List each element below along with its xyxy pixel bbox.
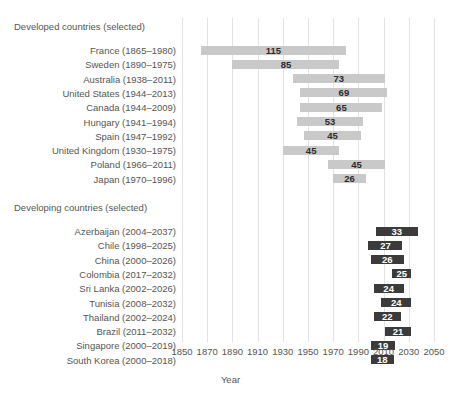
row-label-united-kingdom: United Kingdom (1930–1975) [0,145,176,156]
x-tick-2050: 2050 [423,346,444,357]
row-label-hungary: Hungary (1941–1994) [0,117,176,128]
x-axis-title: Year [0,374,461,385]
x-tick-1930: 1930 [272,346,293,357]
bar-poland: 45 [328,160,385,169]
group-heading-developed: Developed countries (selected) [14,21,145,32]
row-label-france: France (1865–1980) [0,45,176,56]
x-tick-1850: 1850 [171,346,192,357]
bar-value-label: 25 [397,269,408,278]
bar-colombia: 25 [392,269,411,278]
x-tick-1890: 1890 [222,346,243,357]
row-label-sri-lanka: Sri Lanka (2002–2026) [0,283,176,294]
row-label-azerbaijan: Azerbaijan (2004–2037) [0,226,176,237]
bar-spain: 45 [304,131,361,140]
row-label-brazil: Brazil (2011–2032) [0,326,176,337]
x-tick-2010: 2010 [373,346,394,357]
bar-value-label: 33 [392,227,403,236]
row-label-united-states: United States (1944–2013) [0,88,176,99]
bar-value-label: 27 [380,241,391,250]
row-label-chile: Chile (1998–2025) [0,240,176,251]
group-heading-developing: Developing countries (selected) [14,202,147,213]
bar-value-label: 24 [383,284,394,293]
bar-australia: 73 [293,74,385,83]
bar-united-kingdom: 45 [283,146,340,155]
bar-value-label: 21 [393,327,404,336]
bar-chile: 27 [368,241,402,250]
row-label-canada: Canada (1944–2009) [0,102,176,113]
bar-hungary: 53 [297,117,364,126]
chart-canvas: Developed countries (selected)France (18… [0,0,461,402]
row-label-china: China (2000–2026) [0,255,176,266]
bar-value-label: 45 [306,146,317,155]
row-label-colombia: Colombia (2017–2032) [0,269,176,280]
bar-value-label: 53 [325,117,336,126]
row-label-thailand: Thailand (2002–2024) [0,312,176,323]
bar-china: 26 [371,255,404,264]
bar-value-label: 26 [344,174,355,183]
bar-value-label: 22 [382,312,393,321]
bar-value-label: 45 [327,131,338,140]
row-label-sweden: Sweden (1890–1975) [0,59,176,70]
bar-value-label: 65 [336,103,347,112]
bar-sri-lanka: 24 [374,284,404,293]
row-label-south-korea: South Korea (2000–2018) [0,355,176,366]
bar-value-label: 24 [391,298,402,307]
gridline-1850 [182,18,183,342]
gridline-2050 [434,18,435,342]
row-label-poland: Poland (1966–2011) [0,159,176,170]
bar-brazil: 21 [385,327,411,336]
bar-value-label: 85 [281,60,292,69]
bar-value-label: 45 [351,160,362,169]
row-label-spain: Spain (1947–1992) [0,131,176,142]
row-label-singapore: Singapore (2000–2019) [0,340,176,351]
x-tick-1990: 1990 [348,346,369,357]
x-tick-1970: 1970 [323,346,344,357]
bar-thailand: 22 [374,312,402,321]
bar-france: 115 [201,46,346,55]
row-label-japan: Japan (1970–1996) [0,174,176,185]
row-label-tunisia: Tunisia (2008–2032) [0,298,176,309]
x-tick-1910: 1910 [247,346,268,357]
bar-sweden: 85 [232,60,339,69]
x-tick-2030: 2030 [398,346,419,357]
gridline-1870 [207,18,208,342]
bar-azerbaijan: 33 [376,227,418,236]
bar-united-states: 69 [300,88,387,97]
bar-value-label: 69 [339,88,350,97]
bar-value-label: 26 [382,255,393,264]
row-label-australia: Australia (1938–2011) [0,74,176,85]
bar-tunisia: 24 [381,298,411,307]
bar-japan: 26 [333,174,366,183]
x-tick-1950: 1950 [297,346,318,357]
bar-canada: 65 [300,103,382,112]
x-tick-1870: 1870 [197,346,218,357]
gridline-2030 [409,18,410,342]
bar-value-label: 73 [334,74,345,83]
bar-value-label: 115 [266,46,281,55]
